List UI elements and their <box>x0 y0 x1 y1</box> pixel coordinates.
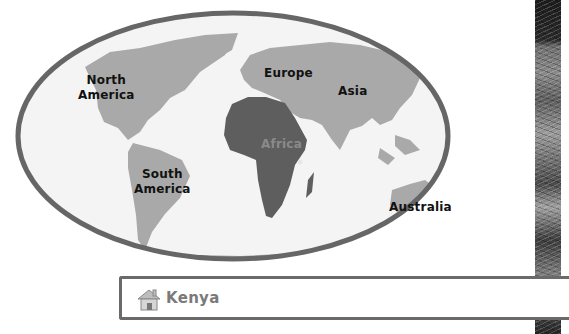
label-north-america: North America <box>78 73 135 103</box>
label-asia: Asia <box>338 84 367 99</box>
banner-title: Kenya <box>166 289 220 307</box>
label-australia: Australia <box>389 200 452 215</box>
location-banner: Kenya <box>119 276 569 320</box>
label-south-america: South America <box>134 167 191 197</box>
world-map: North America South America Europe Asia … <box>0 0 500 270</box>
label-europe: Europe <box>264 66 313 81</box>
world-map-graphic <box>0 0 500 270</box>
house-icon[interactable] <box>136 287 162 311</box>
kenya-marker <box>298 160 303 165</box>
label-africa: Africa <box>261 137 302 152</box>
